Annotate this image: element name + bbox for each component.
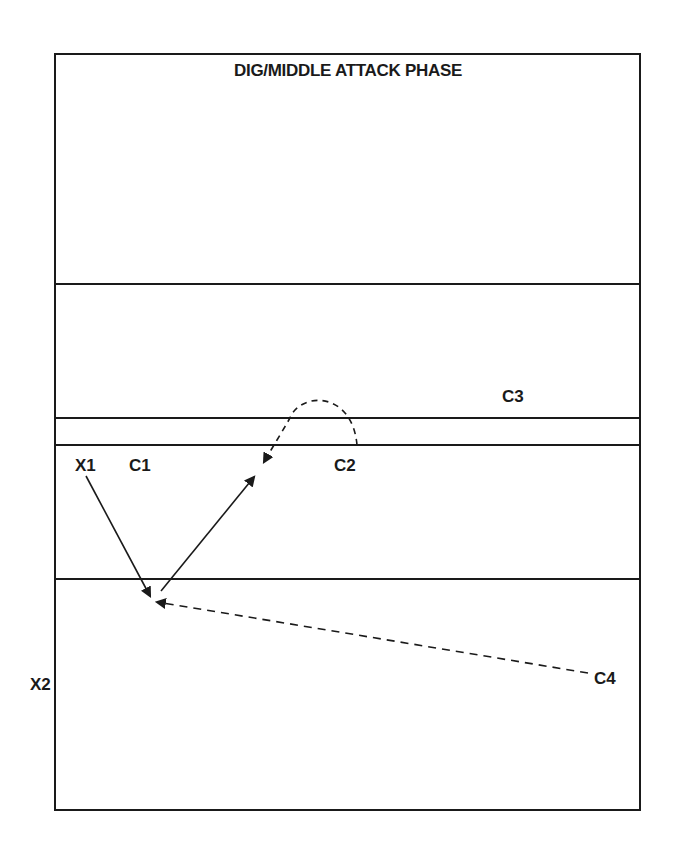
arrow-dig-to-middle	[161, 477, 254, 591]
diagram-title: DIG/MIDDLE ATTACK PHASE	[234, 61, 462, 80]
player-label-c2: C2	[334, 456, 356, 475]
arrow-c4-to-dig	[157, 602, 588, 673]
player-label-c1: C1	[129, 456, 151, 475]
court-diagram: DIG/MIDDLE ATTACK PHASE X1 C1 C2 C3 C4 X…	[0, 0, 674, 850]
arrow-x1-to-dig	[86, 476, 150, 596]
player-label-x1: X1	[75, 456, 96, 475]
player-label-x2: X2	[30, 675, 51, 694]
player-label-c3: C3	[502, 387, 524, 406]
arrow-c2-loop	[264, 400, 357, 462]
player-label-c4: C4	[594, 669, 616, 688]
court-border	[55, 54, 640, 810]
